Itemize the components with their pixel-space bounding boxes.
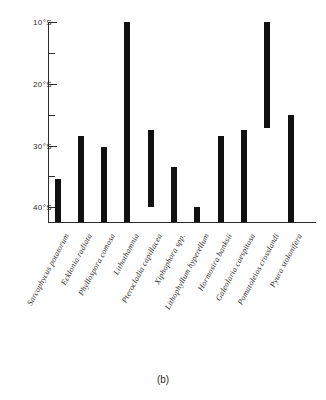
bar-pomatoleios-crosslandi (264, 22, 270, 128)
x-axis-line (48, 222, 316, 223)
y-tick-label-40: 40°S (33, 203, 52, 212)
y-tick-label-30: 30°S (33, 142, 52, 151)
x-label-sarcophycus-potatorum: Sarcophycus potatorum (25, 232, 71, 307)
bar-lithophyllum-hyperellum (194, 207, 200, 222)
y-tick-25 (49, 115, 55, 116)
bar-pterocladia-capillacea (148, 130, 154, 207)
y-tick-label-20: 20°S (33, 80, 52, 89)
y-tick-15 (49, 53, 55, 54)
bar-sarcophycus-potatorum (55, 179, 61, 222)
figure-panel-b: 10°S 20°S 30°S 40°S Sarcophycus potatoru… (0, 0, 326, 400)
bar-hormosira-banksii (218, 136, 224, 222)
y-tick-label-10: 10°S (33, 18, 52, 27)
y-tick-35 (49, 176, 55, 177)
bar-xiphophora-spp (171, 167, 177, 222)
bar-ecklonia-radiata (78, 136, 84, 222)
chart-plot-area: 10°S 20°S 30°S 40°S (0, 0, 326, 232)
bar-pyura-stolonifera (288, 115, 294, 222)
bar-galeolaria-caespitosa (241, 130, 247, 222)
figure-caption: (b) (0, 374, 326, 385)
bar-lithothamnia (124, 22, 130, 222)
x-axis-category-labels: Sarcophycus potatorum Ecklonia radiata P… (0, 232, 326, 372)
bar-phyllospora-comosa (101, 147, 107, 222)
